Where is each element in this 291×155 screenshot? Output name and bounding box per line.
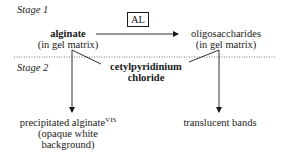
oligosaccharides-detail: (in gel matrix) [196,39,257,50]
stage-1-label: Stage 1 [17,4,48,15]
diagram-canvas: Stage 1 Stage 2 AL alginate (in gel matr… [0,0,291,155]
precipitate-detail-line1: (opaque white [38,128,98,139]
precipitate-label-text: precipitated alginate [20,117,105,128]
precipitate-detail-line2: background) [41,139,94,150]
stage-2-label: Stage 2 [17,62,48,73]
alginate-label: alginate [50,28,86,39]
enzyme-box: AL [127,12,149,27]
reagent-label-line1: cetylpyridinium [110,61,182,72]
alginate-detail: (in gel matrix) [38,39,99,50]
reagent-to-oligosaccharides-line [189,50,219,62]
oligosaccharides-label: oligosaccharides [191,28,261,39]
reagent-label-line2: chloride [128,72,165,83]
precipitate-label: precipitated alginateVIS [20,117,117,128]
precipitate-superscript: VIS [105,116,116,124]
translucent-bands-label: translucent bands [183,117,256,128]
